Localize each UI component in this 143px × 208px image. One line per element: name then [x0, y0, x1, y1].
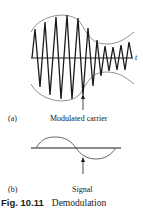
- modulated-carrier-label: Modulated carrier: [50, 114, 108, 123]
- figure-caption-text: Demodulation: [52, 198, 106, 208]
- signal-label: Signal: [72, 185, 92, 194]
- axis-label-t: t: [135, 53, 137, 62]
- diagram-canvas: [0, 0, 143, 208]
- panel-a-tag: (a): [8, 114, 17, 123]
- figure-caption: Fig. 10.11Demodulation: [1, 198, 106, 208]
- panel-b-tag: (b): [8, 185, 17, 194]
- figure-number: Fig. 10.11: [1, 197, 44, 208]
- arrow-b-head: [81, 157, 85, 162]
- modulated-carrier-wave: [32, 15, 132, 99]
- arrow-a-head: [81, 94, 85, 99]
